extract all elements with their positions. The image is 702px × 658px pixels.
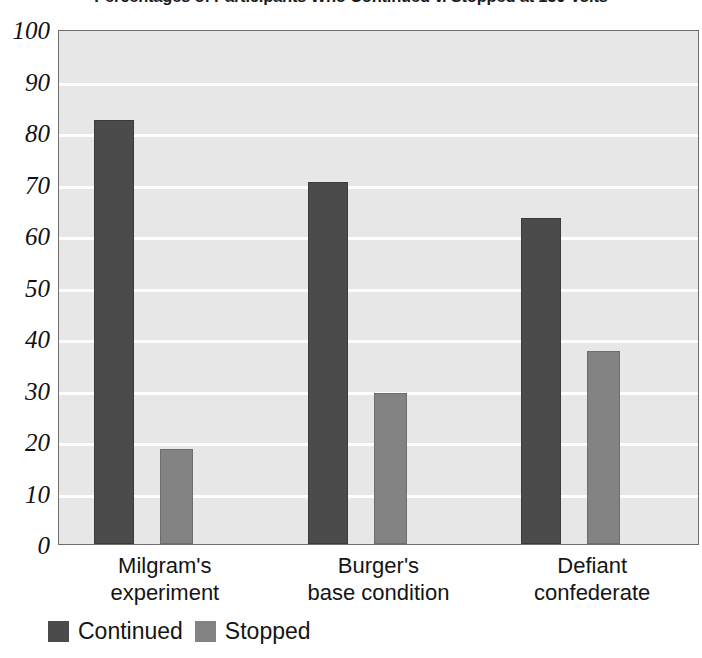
gridline [59, 83, 698, 86]
x-axis-category-label: Defiantconfederate [485, 552, 699, 606]
x-axis-category-line: confederate [485, 579, 699, 606]
legend-swatch-icon [195, 621, 216, 642]
legend-swatch-icon [48, 621, 69, 642]
chart-legend: ContinuedStopped [48, 618, 311, 645]
gridline [59, 289, 698, 292]
bar-stopped-2 [587, 351, 620, 544]
x-axis-labels: Milgram'sexperimentBurger'sbase conditio… [58, 552, 699, 610]
gridline [59, 340, 698, 343]
x-axis-category-line: experiment [58, 579, 272, 606]
bar-stopped-0 [160, 449, 193, 544]
chart-title: Percentages of Participants Who Continue… [0, 0, 702, 6]
y-axis-tick-label: 0 [0, 533, 50, 558]
gridline [59, 237, 698, 240]
y-axis-tick-label: 100 [0, 18, 50, 43]
bar-continued-1 [308, 182, 348, 545]
gridline [59, 186, 698, 189]
y-axis-tick-label: 30 [0, 378, 50, 403]
x-axis-category-label: Milgram'sexperiment [58, 552, 272, 606]
x-axis-category-line: Milgram's [58, 552, 272, 579]
y-axis-tick-label: 40 [0, 327, 50, 352]
y-axis-tick-label: 10 [0, 481, 50, 506]
y-axis-tick-label: 80 [0, 121, 50, 146]
x-axis-category-line: base condition [272, 579, 486, 606]
y-axis: 1009080706050403020100 [0, 30, 50, 545]
y-axis-tick-label: 90 [0, 69, 50, 94]
y-axis-tick-label: 20 [0, 430, 50, 455]
y-axis-tick-label: 60 [0, 224, 50, 249]
x-axis-category-line: Defiant [485, 552, 699, 579]
bar-continued-2 [521, 218, 561, 544]
bar-continued-0 [94, 120, 134, 544]
y-axis-tick-label: 50 [0, 275, 50, 300]
bar-stopped-1 [374, 393, 407, 544]
legend-item-stopped[interactable]: Stopped [195, 618, 311, 645]
plot-area [58, 30, 699, 545]
x-axis-category-line: Burger's [272, 552, 486, 579]
gridline [59, 134, 698, 137]
legend-label: Continued [78, 618, 183, 645]
y-axis-tick-label: 70 [0, 172, 50, 197]
x-axis-category-label: Burger'sbase condition [272, 552, 486, 606]
legend-item-continued[interactable]: Continued [48, 618, 183, 645]
legend-label: Stopped [225, 618, 311, 645]
